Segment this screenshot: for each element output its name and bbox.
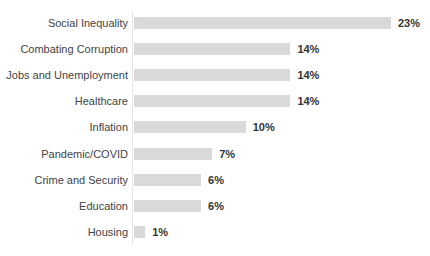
bar-fill xyxy=(134,69,290,81)
bar-track xyxy=(134,43,290,55)
bar-row: Social Inequality23% xyxy=(0,17,430,29)
bar-fill xyxy=(134,43,290,55)
bar-row: Jobs and Unemployment14% xyxy=(0,69,430,81)
bar-value-label: 7% xyxy=(212,148,235,160)
bar-fill xyxy=(134,226,145,238)
bar-chart: Social Inequality23%Combating Corruption… xyxy=(0,0,430,256)
bar-track xyxy=(134,121,246,133)
bar-track xyxy=(134,148,212,160)
bar-value-label: 10% xyxy=(246,121,275,133)
bar-value-label: 23% xyxy=(391,17,420,29)
bar-track xyxy=(134,17,391,29)
bar-row: Pandemic/COVID7% xyxy=(0,148,430,160)
category-label: Crime and Security xyxy=(34,174,132,186)
bar-fill xyxy=(134,95,290,107)
category-label: Combating Corruption xyxy=(20,43,132,55)
category-label: Education xyxy=(79,200,132,212)
bar-fill xyxy=(134,17,391,29)
bar-fill xyxy=(134,121,246,133)
bar-row: Education6% xyxy=(0,200,430,212)
bar-fill xyxy=(134,174,201,186)
bar-track xyxy=(134,95,290,107)
bar-row: Healthcare14% xyxy=(0,95,430,107)
category-label: Jobs and Unemployment xyxy=(6,69,132,81)
category-label: Inflation xyxy=(89,121,132,133)
bar-row: Inflation10% xyxy=(0,121,430,133)
bar-track xyxy=(134,226,145,238)
plot-area: Social Inequality23%Combating Corruption… xyxy=(0,0,430,256)
bar-fill xyxy=(134,148,212,160)
bar-track xyxy=(134,69,290,81)
category-label: Healthcare xyxy=(75,95,132,107)
bar-value-label: 14% xyxy=(290,69,319,81)
bar-fill xyxy=(134,200,201,212)
bar-track xyxy=(134,200,201,212)
bar-value-label: 14% xyxy=(290,95,319,107)
bar-value-label: 6% xyxy=(201,174,224,186)
bar-value-label: 14% xyxy=(290,43,319,55)
bar-value-label: 1% xyxy=(145,226,168,238)
category-label: Pandemic/COVID xyxy=(41,148,132,160)
bar-row: Housing1% xyxy=(0,226,430,238)
bar-row: Combating Corruption14% xyxy=(0,43,430,55)
bar-value-label: 6% xyxy=(201,200,224,212)
bar-track xyxy=(134,174,201,186)
bar-row: Crime and Security6% xyxy=(0,174,430,186)
category-label: Housing xyxy=(88,226,132,238)
category-label: Social Inequality xyxy=(48,17,132,29)
